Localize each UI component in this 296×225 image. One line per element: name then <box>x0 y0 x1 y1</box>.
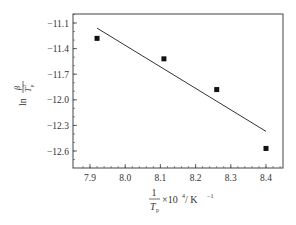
chart: 7.98.08.18.28.38.4−11.1−11.4−11.7−12.0−1… <box>0 0 296 225</box>
y-tick-label: −11.7 <box>47 70 69 80</box>
data-point-square <box>95 36 100 41</box>
x-tick-label: 8.1 <box>154 173 166 183</box>
y-tick-label: −12.0 <box>47 95 69 105</box>
x-label-denominator-sub: p <box>156 207 159 213</box>
y-label-numerator: β <box>13 86 22 91</box>
x-tick-label: 8.0 <box>119 173 131 183</box>
y-tick-label: −11.1 <box>47 19 69 29</box>
y-axis-label: lnβTp2 <box>13 81 34 106</box>
fit-line <box>97 28 266 131</box>
x-label-unit: / K <box>185 194 198 205</box>
y-tick-label: −12.3 <box>47 121 69 131</box>
y-tick-label: −11.4 <box>47 44 69 54</box>
x-label-factor: ×10 <box>162 194 178 205</box>
y-tick-label: −12.6 <box>47 147 69 157</box>
x-tick-label: 8.2 <box>190 173 202 183</box>
data-point-square <box>161 56 166 61</box>
plot-area <box>73 14 283 168</box>
y-label-denominator-sub: p <box>29 84 34 87</box>
data-point-square <box>264 146 269 151</box>
x-label-numerator: 1 <box>152 187 157 198</box>
y-label-ln: ln <box>17 98 28 106</box>
x-label-unit-exponent: −1 <box>207 193 213 199</box>
x-tick-label: 8.4 <box>260 173 272 183</box>
x-tick-label: 7.9 <box>84 173 96 183</box>
x-tick-label: 8.3 <box>225 173 237 183</box>
data-point-square <box>214 87 219 92</box>
